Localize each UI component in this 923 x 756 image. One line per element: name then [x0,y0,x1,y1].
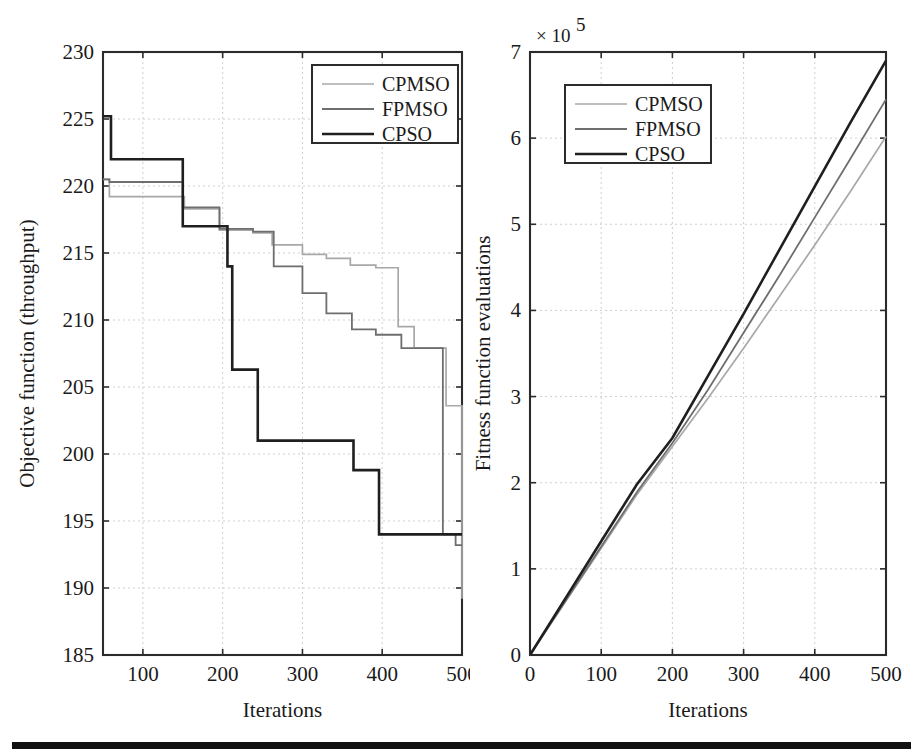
series-line-cpmso [530,136,886,655]
x-tick-label: 400 [366,662,398,686]
y-tick-label: 225 [63,107,95,131]
x-tick-label: 0 [525,662,536,686]
exponent-power-text: 5 [576,14,586,35]
y-axis-exponent-right: × 10 5 [536,14,586,46]
y-tick-labels-right: 01234567 [511,40,522,667]
legend-label-fpmso: FPMSO [382,98,448,120]
y-tick-label: 2 [511,471,522,495]
figure-container: 100200300400500 185190195200205210215220… [0,0,923,756]
y-tick-label: 215 [63,241,95,265]
y-tick-label: 7 [511,40,522,64]
y-tick-label: 195 [63,509,95,533]
y-tick-labels-left: 185190195200205210215220225230 [63,40,95,667]
legend-label-cpso: CPSO [382,123,432,145]
x-tick-label: 400 [799,662,831,686]
y-tick-label: 4 [511,298,522,322]
y-tick-label: 6 [511,126,522,150]
x-tick-labels-left: 100200300400500 [127,662,470,686]
series-line-fpmso [103,179,462,545]
y-tick-label: 210 [63,308,95,332]
x-tick-label: 300 [287,662,319,686]
y-axis-title-left: Objective function (throughput) [15,219,39,487]
legend-label-fpmso: FPMSO [635,118,701,140]
objective-function-chart: 100200300400500 185190195200205210215220… [0,0,470,740]
series-line-cpmso [103,179,462,598]
legend-label-cpmso: CPMSO [382,73,450,95]
y-tick-label: 3 [511,385,522,409]
x-axis-title-right: Iterations [668,698,747,722]
y-tick-label: 230 [63,40,95,64]
y-axis-title-right: Fitness function evaluations [471,236,495,472]
y-tick-label: 5 [511,212,522,236]
y-tick-label: 0 [511,643,522,667]
y-tick-label: 200 [63,442,95,466]
exponent-base-text: × 10 [536,25,570,46]
fitness-evaluations-chart: 0100200300400500 01234567 × 10 5 Iterati… [460,0,923,740]
legend-label-cpso: CPSO [635,143,685,165]
legend-right: CPMSOFPMSOCPSO [565,85,711,165]
x-tick-label: 200 [657,662,689,686]
x-tick-labels-right: 0100200300400500 [525,662,902,686]
series-line-cpso [103,116,462,534]
x-tick-label: 300 [728,662,760,686]
y-tick-label: 220 [63,174,95,198]
y-tick-label: 205 [63,375,95,399]
y-tick-label: 1 [511,557,522,581]
y-tick-label: 185 [63,643,95,667]
x-axis-title-left: Iterations [243,698,322,722]
x-tick-label: 200 [207,662,239,686]
legend-left: CPMSOFPMSOCPSO [312,65,458,145]
bottom-divider-rule [12,742,911,749]
x-tick-label: 500 [870,662,902,686]
y-tick-label: 190 [63,576,95,600]
legend-label-cpmso: CPMSO [635,93,703,115]
chart-panel-right: 0100200300400500 01234567 × 10 5 Iterati… [460,0,923,756]
x-tick-label: 100 [585,662,617,686]
x-tick-label: 100 [127,662,159,686]
chart-panel-left: 100200300400500 185190195200205210215220… [0,0,470,756]
series-group-left [103,116,462,598]
